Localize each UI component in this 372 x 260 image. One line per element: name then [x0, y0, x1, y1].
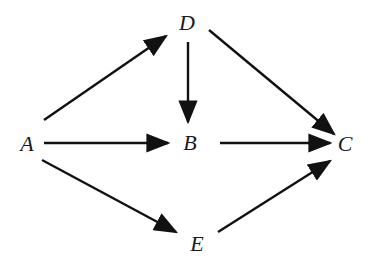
node-a: A	[18, 131, 34, 156]
edge-a-to-d	[44, 36, 166, 120]
node-c: C	[338, 131, 353, 156]
nodes-group: A B C D E	[18, 10, 352, 256]
edge-e-to-c	[218, 161, 330, 232]
edge-d-to-c	[209, 30, 334, 134]
node-d: D	[178, 10, 195, 35]
node-e: E	[189, 231, 204, 256]
edge-a-to-e	[42, 160, 176, 232]
directed-graph: A B C D E	[0, 0, 372, 260]
node-b: B	[183, 130, 196, 155]
